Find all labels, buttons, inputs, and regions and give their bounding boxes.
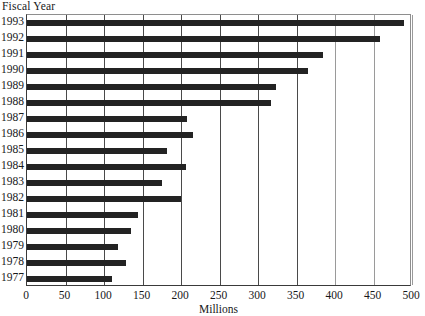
x-tick-label-200: 200: [171, 289, 188, 301]
y-tick-label-1983: 1983: [0, 176, 24, 188]
bar-row: [27, 95, 271, 111]
bar-1986: [27, 132, 193, 137]
y-tick-label-1991: 1991: [0, 48, 24, 60]
x-tick-label-350: 350: [287, 289, 304, 301]
bar-1985: [27, 148, 167, 153]
gridline: [374, 15, 375, 285]
x-tick-label-150: 150: [133, 289, 150, 301]
y-tick-label-1984: 1984: [0, 160, 24, 172]
bar-row: [27, 79, 276, 95]
x-axis-title: Millions: [26, 303, 411, 315]
x-tick-label-300: 300: [248, 289, 265, 301]
bar-row: [27, 255, 126, 271]
bar-row: [27, 15, 404, 31]
y-tick-label-1992: 1992: [0, 32, 24, 44]
y-tick-label-1988: 1988: [0, 96, 24, 108]
x-tick-label-400: 400: [325, 289, 342, 301]
bar-row: [27, 127, 193, 143]
y-tick-label-1985: 1985: [0, 144, 24, 156]
bar-1982: [27, 196, 181, 201]
bar-row: [27, 207, 138, 223]
bar-1979: [27, 244, 118, 249]
x-tick-label-0: 0: [23, 289, 29, 301]
y-axis-tick-labels: 1993199219911990198919881987198619851984…: [0, 14, 26, 286]
x-tick-label-250: 250: [210, 289, 227, 301]
plot-area: [26, 14, 411, 286]
y-tick-label-1978: 1978: [0, 256, 24, 268]
y-tick-label-1979: 1979: [0, 240, 24, 252]
gridline: [335, 15, 336, 285]
bar-row: [27, 271, 112, 287]
y-tick-label-1990: 1990: [0, 64, 24, 76]
x-tick-label-50: 50: [59, 289, 71, 301]
bar-1989: [27, 84, 276, 89]
x-tick-label-450: 450: [364, 289, 381, 301]
bar-row: [27, 175, 162, 191]
y-tick-label-1982: 1982: [0, 192, 24, 204]
gridline: [412, 15, 413, 285]
bar-row: [27, 111, 187, 127]
bar-1987: [27, 116, 187, 121]
x-tick-label-100: 100: [94, 289, 111, 301]
bar-row: [27, 159, 186, 175]
bar-1991: [27, 52, 323, 57]
bar-chart: Fiscal Year 1993199219911990198919881987…: [0, 0, 425, 316]
bar-1978: [27, 260, 126, 265]
bar-1992: [27, 36, 380, 41]
x-tick-label-500: 500: [402, 289, 419, 301]
bar-1984: [27, 164, 186, 169]
bar-row: [27, 31, 380, 47]
bar-1993: [27, 20, 404, 25]
bar-1980: [27, 228, 131, 233]
y-tick-label-1989: 1989: [0, 80, 24, 92]
bar-row: [27, 47, 323, 63]
y-tick-label-1987: 1987: [0, 112, 24, 124]
bar-row: [27, 143, 167, 159]
x-axis-tick-labels: 050100150200250300350400450500: [26, 289, 411, 303]
bar-1981: [27, 212, 138, 217]
bar-1990: [27, 68, 308, 73]
y-tick-label-1981: 1981: [0, 208, 24, 220]
y-tick-label-1986: 1986: [0, 128, 24, 140]
bar-row: [27, 191, 181, 207]
y-tick-label-1977: 1977: [0, 272, 24, 284]
y-tick-label-1980: 1980: [0, 224, 24, 236]
bar-row: [27, 223, 131, 239]
bar-row: [27, 239, 118, 255]
bar-1988: [27, 100, 271, 105]
bar-1977: [27, 276, 112, 281]
y-tick-label-1993: 1993: [0, 16, 24, 28]
bar-1983: [27, 180, 162, 185]
y-axis-title: Fiscal Year: [2, 0, 55, 12]
bar-row: [27, 63, 308, 79]
